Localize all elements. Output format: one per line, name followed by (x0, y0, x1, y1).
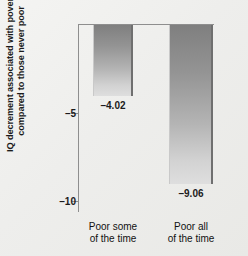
y-tick-label-minus10: –10 (59, 195, 76, 206)
x-category-label-poor-some-of-the-time: Poor some of the time (89, 221, 137, 246)
bar-value-label-poor-all-of-the-time: –9.06 (178, 188, 203, 199)
bar-poor-all-of-the-time[interactable] (169, 25, 213, 184)
y-axis-title: IQ decrement associated with poverty com… (5, 0, 39, 171)
x-category-label-line-1: Poor some (89, 221, 137, 233)
y-tick-label-minus5: –5 (65, 107, 76, 118)
x-category-label-line-2: of the time (89, 233, 137, 245)
y-axis-title-line-1: IQ decrement associated with poverty (5, 0, 16, 171)
x-category-label-line-2: of the time (168, 233, 215, 245)
bar-chart-figure: IQ decrement associated with poverty com… (0, 0, 248, 256)
x-category-label-poor-all-of-the-time: Poor all of the time (168, 221, 215, 246)
bar-value-label-poor-some-of-the-time: –4.02 (100, 100, 125, 111)
y-axis-title-line-2: compared to those never poor (16, 0, 27, 171)
plot-area: –5 –10 –4.02 –9.06 Poor some of the time… (78, 24, 214, 212)
x-category-label-line-1: Poor all (168, 221, 215, 233)
bar-poor-some-of-the-time[interactable] (93, 25, 133, 96)
